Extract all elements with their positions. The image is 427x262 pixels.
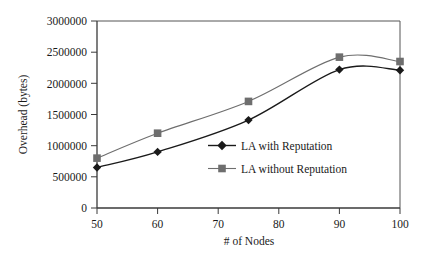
y-tick-label-1: 500000 xyxy=(53,171,88,183)
diamond-marker-icon xyxy=(217,141,226,150)
legend: LA with Reputation LA without Reputation xyxy=(208,140,347,176)
square-marker-icon xyxy=(218,165,226,173)
data-point-90 xyxy=(335,65,343,73)
y-tick-label-0: 0 xyxy=(81,202,87,214)
series-markers-la-with-reputation xyxy=(93,65,404,171)
x-axis-title: # of Nodes xyxy=(224,235,275,247)
x-tick-label-2: 70 xyxy=(212,218,224,230)
chart-figure: 0 500000 1000000 1500000 2000000 2500000… xyxy=(0,0,427,262)
x-tick-label-0: 50 xyxy=(91,218,103,230)
data-point-60 xyxy=(153,148,161,156)
data-point-75 xyxy=(245,98,253,106)
x-tick-label-3: 80 xyxy=(273,218,285,230)
data-point-50 xyxy=(93,163,101,171)
x-tick-label-1: 60 xyxy=(152,218,164,230)
y-tick-label-4: 2000000 xyxy=(47,78,88,90)
y-axis-ticks xyxy=(91,21,97,208)
x-tick-label-5: 100 xyxy=(391,218,409,230)
data-point-100 xyxy=(396,58,404,66)
data-point-75 xyxy=(244,116,252,124)
plot-frame xyxy=(97,21,400,208)
data-point-90 xyxy=(336,53,344,61)
y-axis-title: Overhead (bytes) xyxy=(17,75,30,155)
data-point-60 xyxy=(154,129,162,137)
y-tick-label-6: 3000000 xyxy=(47,15,88,27)
overhead-vs-nodes-line-chart: 0 500000 1000000 1500000 2000000 2500000… xyxy=(0,0,427,262)
data-point-50 xyxy=(93,154,101,162)
legend-item-la-without-reputation: LA without Reputation xyxy=(208,163,347,176)
legend-label-la-with-reputation: LA with Reputation xyxy=(241,140,333,153)
y-tick-label-2: 1000000 xyxy=(47,140,88,152)
legend-item-la-with-reputation: LA with Reputation xyxy=(208,140,333,153)
data-point-100 xyxy=(396,66,404,74)
legend-label-la-without-reputation: LA without Reputation xyxy=(241,163,347,176)
x-tick-label-4: 90 xyxy=(334,218,346,230)
y-tick-label-3: 1500000 xyxy=(47,109,88,121)
y-tick-label-5: 2500000 xyxy=(47,46,88,58)
x-axis-ticks xyxy=(97,208,400,214)
